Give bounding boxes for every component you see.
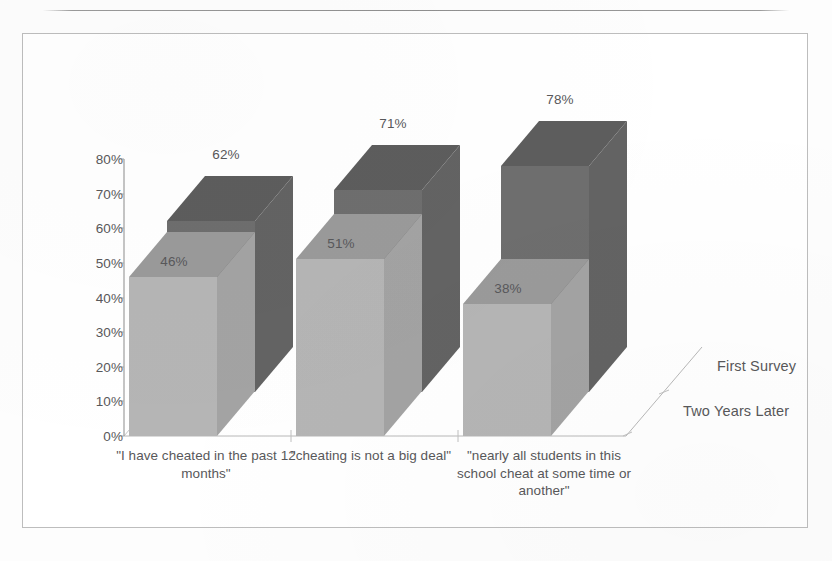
value-label-two-years-later-cat-3: 38% <box>473 281 543 296</box>
y-tick-40: 40% <box>81 292 123 306</box>
chart-plot-area: 80% 70% 60% 50% 40% 30% 20% 10% 0% 46% 6… <box>23 34 807 527</box>
category-label-2: "cheating is not a big deal" <box>285 447 457 465</box>
chart-frame: 80% 70% 60% 50% 40% 30% 20% 10% 0% 46% 6… <box>22 33 808 528</box>
y-tick-0: 0% <box>81 430 123 444</box>
value-label-first-survey-cat-3: 78% <box>525 92 595 107</box>
y-tick-10: 10% <box>81 395 123 409</box>
y-tick-70: 70% <box>81 188 123 202</box>
value-label-two-years-later-cat-2: 51% <box>306 236 376 251</box>
y-tick-20: 20% <box>81 361 123 375</box>
page-horizontal-rule <box>42 10 790 11</box>
category-label-3: "nearly all students in this school chea… <box>451 447 637 500</box>
y-tick-80: 80% <box>81 153 123 167</box>
series-label-first-survey: First Survey <box>717 358 796 374</box>
y-tick-60: 60% <box>81 222 123 236</box>
y-tick-50: 50% <box>81 257 123 271</box>
value-label-first-survey-cat-2: 71% <box>358 116 428 131</box>
value-label-two-years-later-cat-1: 46% <box>139 254 209 269</box>
value-label-first-survey-cat-1: 62% <box>191 147 261 162</box>
category-label-1: "I have cheated in the past 12 months" <box>111 447 301 482</box>
series-label-two-years-later: Two Years Later <box>683 403 789 419</box>
y-tick-30: 30% <box>81 326 123 340</box>
